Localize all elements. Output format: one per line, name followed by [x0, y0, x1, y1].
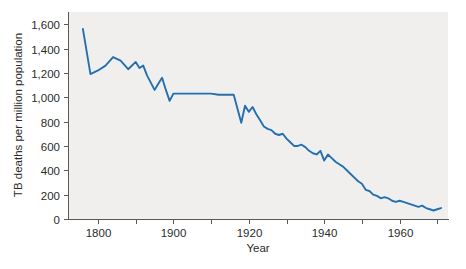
x-axis-tick-label: 1800: [86, 227, 112, 239]
y-axis-tick-label: 1,600: [31, 19, 60, 31]
x-axis-tick-label: 1900: [161, 227, 187, 239]
y-axis-tick-label: 1,200: [31, 68, 60, 80]
y-axis-title: TB deaths per million population: [12, 33, 24, 197]
y-axis-tick-label: 1,000: [31, 92, 60, 104]
x-axis-tick-label: 1920: [237, 227, 263, 239]
tb-deaths-line-chart-figure: 02004006008001,0001,2001,4001,600 180019…: [0, 0, 466, 269]
y-axis-tick-label: 600: [41, 141, 60, 153]
y-axis-tick-label: 400: [41, 165, 60, 177]
x-axis-tick-label: 1940: [312, 227, 338, 239]
chart-canvas: 02004006008001,0001,2001,4001,600 180019…: [0, 0, 466, 269]
x-axis-tick-label: 1960: [388, 227, 414, 239]
y-axis-tick-label: 200: [41, 190, 60, 202]
y-axis-tick-label: 0: [54, 214, 60, 226]
x-axis-title: Year: [246, 242, 269, 254]
y-axis-tick-label: 1,400: [31, 44, 60, 56]
y-axis-tick-label: 800: [41, 117, 60, 129]
